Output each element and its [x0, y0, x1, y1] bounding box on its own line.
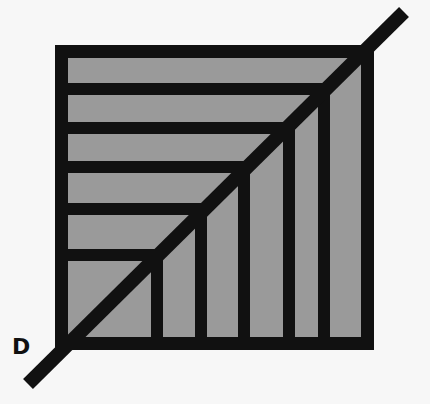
- horizontal-bar-4: [55, 203, 205, 215]
- horizontal-bar-2: [55, 122, 287, 134]
- vertical-bar-3: [238, 170, 250, 350]
- horizontal-bar-1: [55, 83, 326, 95]
- vertical-bar-4: [283, 126, 295, 350]
- vertical-bar-5: [318, 91, 330, 350]
- horizontal-bar-3: [55, 161, 247, 173]
- label-d: D: [12, 334, 30, 359]
- nested-square-diagram: [0, 0, 430, 404]
- vertical-bar-2: [195, 213, 207, 350]
- horizontal-bar-5: [55, 249, 158, 261]
- vertical-bar-1: [151, 256, 163, 350]
